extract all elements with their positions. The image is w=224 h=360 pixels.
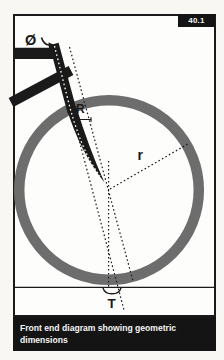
label-wheel-radius: r [138, 147, 144, 163]
label-steerer-diameter: Ø [25, 32, 36, 48]
label-fork-rake: R [76, 102, 85, 116]
figure-number: 40.1 [188, 16, 204, 25]
label-trail: T [108, 296, 117, 311]
front-end-geometry-diagram: Ø R r T [0, 0, 224, 360]
caption-text: Front end diagram showing geometric dime… [20, 322, 200, 346]
caption-bar: Front end diagram showing geometric dime… [13, 317, 216, 351]
scanned-figure-page: Ø R r T 40.1 Front end diagram showing g… [0, 0, 224, 360]
figure-number-badge: 40.1 [178, 14, 215, 27]
figure-frame [14, 15, 215, 316]
